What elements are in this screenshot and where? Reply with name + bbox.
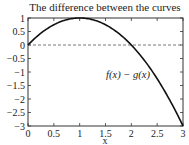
x-tick-label: 2 [129, 128, 134, 139]
plot-area: 10.50−0.5−1−1.5−2−2.5−3 00.511.522.53 f(… [7, 13, 186, 140]
y-tick-label: −2 [14, 94, 25, 105]
chart: The difference between the curves 10.50−… [0, 0, 189, 145]
x-tick-label: 0.5 [48, 128, 61, 139]
chart-title: The difference between the curves [29, 1, 180, 13]
curve-annotation: f(x) − g(x) [106, 69, 150, 81]
y-tick-label: 0.5 [13, 26, 26, 37]
x-tick-label: 2.5 [151, 128, 164, 139]
x-tick-label: 1 [77, 128, 82, 139]
x-tick-label: 3 [181, 128, 186, 139]
y-tick-label: −1 [14, 67, 25, 78]
y-tick-label: 0 [20, 40, 25, 51]
y-tick-label: −2.5 [7, 107, 25, 118]
y-tick-label: −0.5 [7, 53, 25, 64]
y-tick-label: −1.5 [7, 80, 25, 91]
y-tick-label: −3 [14, 121, 25, 132]
y-tick-labels: 10.50−0.5−1−1.5−2−2.5−3 [7, 13, 25, 132]
y-tick-label: 1 [20, 13, 25, 24]
x-tick-label: 0 [26, 128, 31, 139]
x-axis-label: x [103, 135, 108, 145]
